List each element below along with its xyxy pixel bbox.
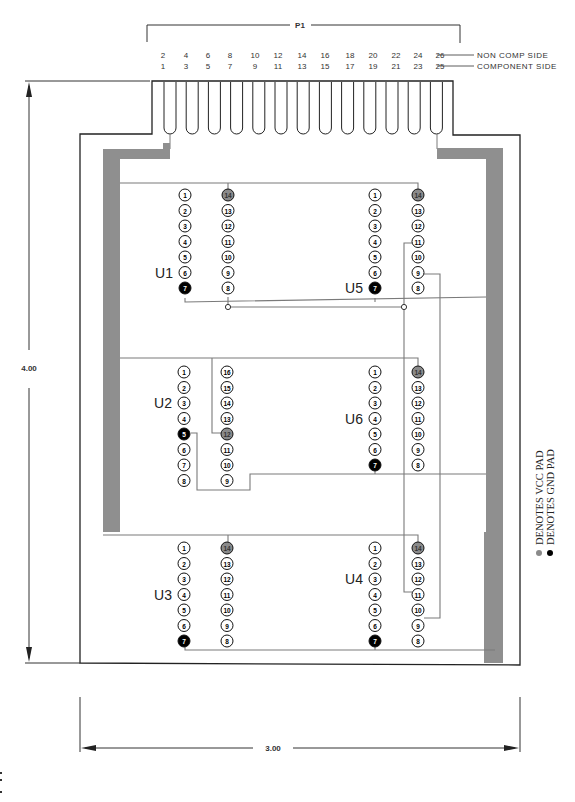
svg-text:14: 14	[414, 192, 422, 199]
connector-pin-label: 24	[414, 51, 423, 60]
connector-pin-label: 5	[206, 62, 211, 71]
svg-text:1: 1	[182, 369, 186, 376]
chip-label: U1	[155, 265, 173, 281]
pin-pad: 4	[369, 236, 381, 248]
pin-pad: 16	[221, 366, 233, 378]
svg-text:6: 6	[373, 270, 377, 277]
svg-text:13: 13	[414, 561, 422, 568]
svg-text:2: 2	[373, 561, 377, 568]
chip-label: U6	[345, 411, 363, 427]
pin-pad: 9	[221, 620, 233, 632]
pin-pad: 1	[369, 189, 381, 201]
connector-pin-label: 17	[346, 62, 355, 71]
svg-text:2: 2	[182, 385, 186, 392]
chip-u3: 1142133124115106978U3	[154, 542, 233, 647]
edge-connector-fingers	[164, 82, 442, 149]
pin-pad: 11	[222, 236, 234, 248]
pin-pad: 2	[179, 205, 191, 217]
pin-pad: 4	[178, 413, 190, 425]
pin-pad: 10	[221, 459, 233, 471]
svg-text:5: 5	[182, 607, 186, 614]
svg-text:7: 7	[182, 462, 186, 469]
gnd-pad: 7	[369, 459, 381, 471]
board-outline	[80, 81, 520, 665]
edge-finger	[408, 82, 420, 134]
svg-text:12: 12	[223, 431, 231, 438]
chip-u2: 11621531441351261171089U2	[154, 366, 233, 487]
chip-label: U4	[345, 571, 363, 587]
svg-text:8: 8	[416, 285, 420, 292]
svg-text:9: 9	[416, 447, 420, 454]
pin-pad: 9	[412, 267, 424, 279]
pin-pad: 8	[178, 475, 190, 487]
pin-pad: 11	[221, 589, 233, 601]
svg-text:12: 12	[224, 223, 232, 230]
gnd-legend-text: DENOTES GND PAD	[545, 449, 556, 545]
pin-pad: 2	[178, 558, 190, 570]
pin-pad: 12	[412, 573, 424, 585]
connector-label: P1	[295, 21, 305, 30]
svg-text:13: 13	[223, 561, 231, 568]
svg-text:5: 5	[182, 431, 186, 438]
svg-text:5: 5	[373, 254, 377, 261]
svg-text:4: 4	[183, 239, 187, 246]
svg-text:3: 3	[373, 400, 377, 407]
vcc-pad: 14	[221, 542, 233, 554]
pin-pad: 2	[178, 382, 190, 394]
svg-text:9: 9	[416, 270, 420, 277]
svg-text:10: 10	[223, 462, 231, 469]
edge-finger	[297, 82, 309, 134]
connector-pin-label: 19	[369, 62, 378, 71]
svg-text:12: 12	[414, 223, 422, 230]
svg-text:4: 4	[182, 416, 186, 423]
pin-pad: 9	[222, 267, 234, 279]
component-side-label: COMPONENT SIDE	[477, 62, 557, 71]
pin-pad: 6	[369, 267, 381, 279]
connector-pin-label: 14	[298, 51, 307, 60]
svg-text:9: 9	[226, 270, 230, 277]
connector-pin-label: 26	[436, 51, 445, 60]
via-node	[225, 304, 230, 309]
chip-u5: 1142133124115106978U5	[345, 189, 424, 296]
svg-text:14: 14	[414, 545, 422, 552]
svg-text:12: 12	[414, 400, 422, 407]
chip-label: U2	[154, 395, 172, 411]
edge-finger	[231, 82, 243, 134]
svg-text:10: 10	[224, 254, 232, 261]
pin-pad: 8	[412, 459, 424, 471]
connector-pin-label: 10	[251, 51, 260, 60]
svg-text:13: 13	[414, 385, 422, 392]
connector-pin-label: 13	[298, 62, 307, 71]
traces	[103, 183, 495, 650]
pin-pad: 10	[412, 604, 424, 616]
pin-pad: 2	[369, 205, 381, 217]
pin-pad: 5	[369, 604, 381, 616]
svg-text:13: 13	[223, 416, 231, 423]
pin-pad: 8	[221, 635, 233, 647]
svg-text:6: 6	[373, 623, 377, 630]
connector-pin-label: 3	[184, 62, 189, 71]
svg-text:6: 6	[182, 447, 186, 454]
pin-pad: 1	[369, 366, 381, 378]
pin-pad: 1	[179, 189, 191, 201]
svg-text:1: 1	[182, 545, 186, 552]
svg-text:3: 3	[373, 223, 377, 230]
svg-text:3: 3	[182, 400, 186, 407]
height-dimension-label: 4.00	[21, 364, 37, 373]
pin-pad: 8	[412, 635, 424, 647]
svg-text:14: 14	[414, 369, 422, 376]
svg-text:8: 8	[416, 462, 420, 469]
pin-pad: 5	[179, 251, 191, 263]
gnd-pad: 7	[179, 282, 191, 294]
connector-pin-label: 9	[253, 62, 258, 71]
svg-text:7: 7	[182, 638, 186, 645]
svg-text:11: 11	[225, 239, 232, 246]
connector-pin-label: 23	[414, 62, 423, 71]
pin-pad: 1	[178, 542, 190, 554]
svg-text:8: 8	[416, 638, 420, 645]
pin-pad: 9	[412, 620, 424, 632]
edge-finger	[186, 82, 198, 134]
svg-text:6: 6	[183, 270, 187, 277]
pin-pad: 6	[369, 444, 381, 456]
svg-text:2: 2	[373, 208, 377, 215]
